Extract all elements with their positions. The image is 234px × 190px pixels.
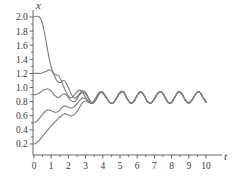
data-series-line: [34, 92, 206, 144]
y-tick-label: 2.0: [16, 12, 28, 22]
x-tick-label: 6: [135, 161, 140, 171]
y-tick-label: 0.6: [16, 111, 28, 121]
x-axis-label: t: [224, 150, 227, 162]
line-chart-plot: 0.20.40.60.81.01.21.41.61.82.00123456789…: [0, 0, 234, 190]
y-tick-label: 1.0: [16, 83, 28, 93]
chart-container: 0.20.40.60.81.01.21.41.61.82.00123456789…: [0, 0, 234, 190]
x-tick-label: 9: [186, 161, 191, 171]
y-tick-label: 0.2: [16, 139, 28, 149]
axis-ticks-layer: [30, 17, 206, 159]
data-series-line: [34, 89, 206, 104]
x-tick-label: 0: [32, 161, 37, 171]
y-tick-label: 0.4: [16, 125, 28, 135]
data-series-layer: [34, 16, 206, 144]
x-tick-label: 8: [169, 161, 174, 171]
x-tick-label: 4: [100, 161, 105, 171]
x-tick-label: 10: [201, 161, 211, 171]
x-tick-label: 3: [83, 161, 88, 171]
y-tick-label: 1.6: [16, 41, 28, 51]
y-tick-label: 1.8: [16, 27, 28, 37]
y-axis-label: x: [36, 0, 41, 11]
data-series-line: [34, 16, 206, 103]
x-tick-label: 5: [118, 161, 123, 171]
y-tick-label: 1.4: [16, 55, 28, 65]
x-tick-label: 2: [66, 161, 71, 171]
y-tick-label: 0.8: [16, 97, 28, 107]
y-tick-label: 1.2: [16, 69, 28, 79]
x-tick-label: 7: [152, 161, 157, 171]
x-tick-label: 1: [49, 161, 54, 171]
data-series-line: [34, 70, 206, 103]
